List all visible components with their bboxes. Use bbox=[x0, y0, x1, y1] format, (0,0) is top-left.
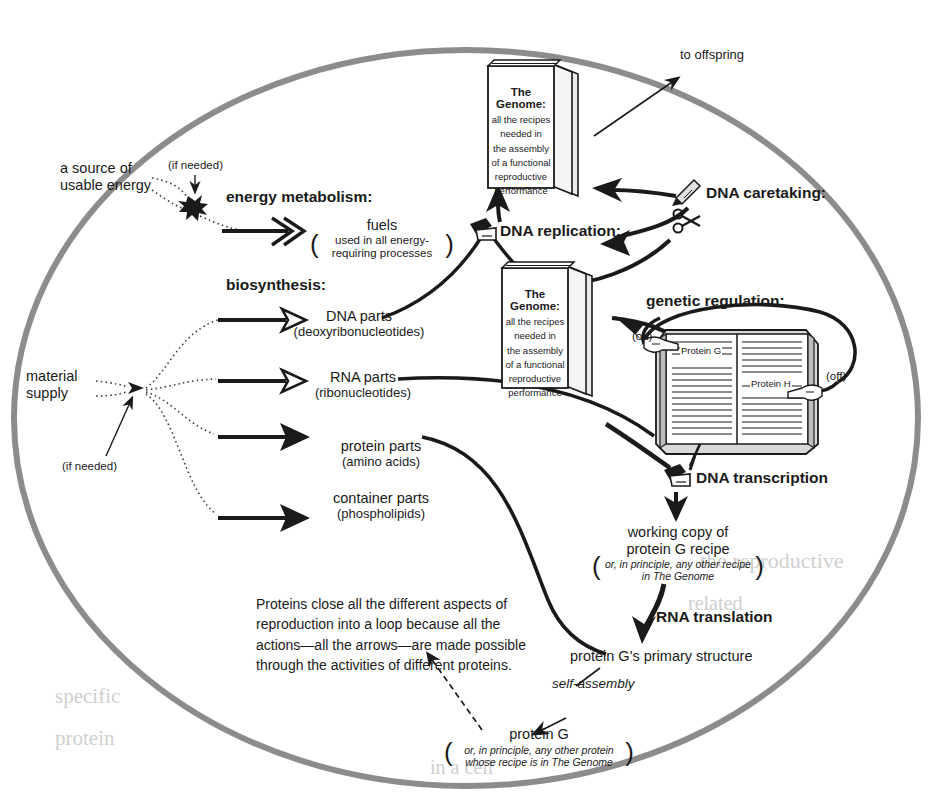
label-container-parts: container parts (phospholipids) bbox=[310, 490, 452, 522]
energy-crossing-marker bbox=[178, 195, 208, 221]
label-material-supply: material supply bbox=[26, 368, 78, 401]
open-book-genetic-regulation bbox=[644, 330, 822, 466]
energy-line-1: a source of bbox=[60, 160, 151, 177]
protein-g-paren-2: whose recipe is in The Genome bbox=[446, 756, 632, 768]
rna-parts-name: RNA parts bbox=[288, 369, 438, 386]
genome-lower-line-5: reproductive bbox=[502, 372, 568, 386]
note-line-3: actions—all the arrows—are made possible bbox=[256, 635, 526, 655]
protein-g-paren-1: or, in principle, any other protein bbox=[446, 744, 632, 756]
label-rna-parts: RNA parts (ribonucleotides) bbox=[288, 369, 438, 401]
heading-dna-replication: DNA replication: bbox=[500, 222, 621, 240]
pencil-icon bbox=[672, 180, 700, 206]
dna-parts-sub: (deoxyribonucleotides) bbox=[272, 325, 446, 340]
label-working-copy: working copy of protein G recipe ( ) or,… bbox=[596, 524, 760, 582]
heading-genetic-regulation: genetic regulation: bbox=[646, 292, 785, 310]
heading-rna-translation: RNA translation bbox=[656, 608, 773, 626]
container-parts-sub: (phospholipids) bbox=[310, 507, 452, 522]
genome-top-line-3: the assembly bbox=[488, 142, 554, 156]
heading-dna-caretaking: DNA caretaking: bbox=[706, 184, 826, 202]
label-protein-g: protein G ( ) or, in principle, any othe… bbox=[446, 726, 632, 768]
genome-lower-line-1: all the recipes bbox=[502, 315, 568, 329]
material-line-2: supply bbox=[26, 385, 78, 402]
genome-lower-title: The Genome: bbox=[502, 288, 568, 312]
note-line-1: Proteins close all the different aspects… bbox=[256, 594, 526, 614]
fuels-sub-1: used in all energy- bbox=[312, 234, 452, 247]
material-entry-group bbox=[96, 320, 218, 514]
arrow-container-parts bbox=[218, 504, 310, 532]
rna-parts-sub: (ribonucleotides) bbox=[288, 386, 438, 401]
genome-top-title: The Genome: bbox=[488, 86, 554, 110]
arrowhead-translation-down bbox=[632, 616, 656, 644]
diagram-canvas: the reproductive related specific protei… bbox=[0, 0, 938, 810]
genome-book-top-text: The Genome: all the recipes needed in th… bbox=[488, 86, 554, 199]
label-off: (off) bbox=[826, 370, 846, 383]
protein-g-name: protein G bbox=[446, 726, 632, 743]
label-on: (on) bbox=[632, 330, 652, 343]
material-line-1: material bbox=[26, 368, 78, 385]
label-to-offspring: to offspring bbox=[680, 48, 744, 63]
writing-hand-icon-replication bbox=[470, 218, 496, 240]
heading-dna-transcription: DNA transcription bbox=[696, 469, 828, 487]
working-copy-line-2: protein G recipe bbox=[596, 541, 760, 558]
working-copy-paren-1: or, in principle, any other recipe bbox=[596, 558, 760, 570]
genome-lower-line-2: needed in bbox=[502, 329, 568, 343]
label-source-of-usable-energy: a source of usable energy bbox=[60, 160, 151, 193]
if-needed-material-pointer bbox=[106, 398, 132, 456]
heading-biosynthesis: biosynthesis: bbox=[226, 276, 326, 294]
container-parts-name: container parts bbox=[310, 490, 452, 507]
arrow-to-offspring bbox=[594, 78, 678, 136]
working-copy-paren-2: in The Genome bbox=[596, 570, 760, 582]
genome-top-line-5: reproductive bbox=[488, 170, 554, 184]
label-self-assembly: self-assembly bbox=[552, 676, 635, 692]
genome-lower-line-3: the assembly bbox=[502, 344, 568, 358]
material-crossing-marker bbox=[128, 382, 144, 394]
genome-book-lower-text: The Genome: all the recipes needed in th… bbox=[502, 288, 568, 401]
heading-energy-metabolism: energy metabolism: bbox=[226, 188, 372, 206]
arrow-protein-parts bbox=[218, 423, 310, 451]
working-copy-line-1: working copy of bbox=[596, 524, 760, 541]
label-if-needed-material: (if needed) bbox=[62, 460, 117, 473]
label-if-needed-energy: (if needed) bbox=[168, 159, 223, 172]
protein-parts-name: protein parts bbox=[316, 438, 446, 455]
label-fuels: fuels ( ) used in all energy- requiring … bbox=[312, 217, 452, 260]
note-line-2: reproduction into a loop because all the bbox=[256, 614, 526, 634]
label-protein-parts: protein parts (amino acids) bbox=[316, 438, 446, 470]
fuels-sub-2: requiring processes bbox=[312, 247, 452, 260]
scissors-icon bbox=[674, 210, 701, 233]
label-protein-h-page: Protein H bbox=[750, 379, 792, 390]
label-protein-g-page: Protein G bbox=[680, 346, 722, 357]
genome-top-line-2: needed in bbox=[488, 127, 554, 141]
fuels-sub: ( ) used in all energy- requiring proces… bbox=[312, 234, 452, 260]
protein-g-paren: ( ) or, in principle, any other protein … bbox=[446, 744, 632, 768]
label-dna-parts: DNA parts (deoxyribonucleotides) bbox=[272, 308, 446, 340]
genome-top-line-6: performance bbox=[488, 184, 554, 198]
genome-top-line-1: all the recipes bbox=[488, 113, 554, 127]
label-primary-structure: protein G's primary structure bbox=[570, 648, 752, 665]
fuels-name: fuels bbox=[312, 217, 452, 234]
genome-top-line-4: of a functional bbox=[488, 156, 554, 170]
note-proteins-close-loop: Proteins close all the different aspects… bbox=[256, 594, 526, 675]
genome-lower-line-6: performance bbox=[502, 386, 568, 400]
note-line-4: through the activities of different prot… bbox=[256, 655, 526, 675]
energy-line-2: usable energy bbox=[60, 177, 151, 194]
dna-parts-name: DNA parts bbox=[272, 308, 446, 325]
genome-lower-line-4: of a functional bbox=[502, 358, 568, 372]
protein-parts-sub: (amino acids) bbox=[316, 455, 446, 470]
arrow-fuels bbox=[222, 218, 304, 245]
curve-caretaking-to-top-genome bbox=[612, 190, 676, 196]
vector-layer bbox=[0, 0, 938, 810]
working-copy-paren: ( ) or, in principle, any other recipe i… bbox=[596, 558, 760, 582]
